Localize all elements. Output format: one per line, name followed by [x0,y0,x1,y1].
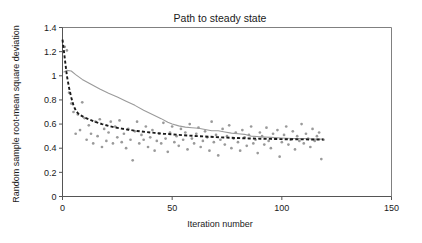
y-tick-label: 0.6 [44,119,57,129]
scatter-point [177,144,180,147]
scatter-point [98,118,101,121]
scatter-point [285,125,288,128]
scatter-point [66,49,69,52]
scatter-point [202,140,205,143]
scatter-point [300,123,303,126]
x-axis-title: Iteration number [187,219,253,229]
x-tick-label: 100 [274,203,289,213]
scatter-point [83,117,86,120]
scatter-point [311,128,314,131]
scatter-point [184,131,187,134]
scatter-point [210,120,213,123]
scatter-point [215,134,218,137]
scatter-point [96,135,99,138]
scatter-point [309,146,312,149]
scatter-point [263,143,266,146]
scatter-point [199,146,202,149]
scatter-point [72,111,75,114]
scatter-point [180,128,183,131]
x-tick-label: 50 [167,203,177,213]
x-tick-label: 0 [60,203,65,213]
scatter-point [219,138,222,141]
y-axis-title: Random sample root-mean square deviation [11,25,21,203]
scatter-point [171,125,174,128]
scatter-point [228,124,231,127]
scatter-point [116,136,119,139]
scatter-point [109,120,112,123]
scatter-point [125,147,128,150]
y-tick-label: 1.4 [44,23,57,33]
scatter-point [217,154,220,157]
scatter-point [278,155,281,158]
scatter-point [276,129,279,132]
scatter-point [173,141,176,144]
scatter-point [191,137,194,140]
scatter-point [298,140,301,143]
scatter-point [87,124,90,127]
scatter-point [74,132,77,135]
scatter-point [81,101,84,104]
scatter-point [149,136,152,139]
scatter-point [138,142,141,145]
scatter-point [193,142,196,145]
scatter-point [256,152,259,155]
scatter-point [230,147,233,150]
scatter-point [186,148,189,151]
scatter-point [140,134,143,137]
scatter-point [129,138,132,141]
scatter-point [136,120,139,123]
scatter-point [237,141,240,144]
scatter-point [90,132,93,135]
scatter-point [112,142,115,145]
scatter-point [302,142,305,145]
y-tick-label: 0.4 [44,143,57,153]
scatter-point [155,140,158,143]
scatter-point [164,137,167,140]
scatter-point [305,132,308,135]
scatter-point [166,150,169,153]
scatter-point [118,119,121,122]
y-tick-label: 0.2 [44,168,57,178]
scatter-point [160,142,163,145]
scatter-point [280,141,283,144]
scatter-point [92,142,95,145]
scatter-point [291,130,294,133]
scatter-point [107,131,110,134]
scatter-point [182,138,185,141]
scatter-point [250,125,253,128]
y-tick-label: 1 [51,71,56,81]
scatter-point [221,128,224,131]
scatter-point [208,149,211,152]
scatter-point [131,159,134,162]
scatter-point [270,147,273,150]
scatter-point [241,129,244,132]
scatter-point [147,146,150,149]
scatter-point [188,123,191,126]
scatter-point [318,131,321,134]
scatter-point [142,138,145,141]
scatter-point [283,134,286,137]
scatter-point [212,141,215,144]
scatter-point [144,125,147,128]
scatter-point [120,141,123,144]
scatter-point [294,148,297,151]
scatter-point [101,146,104,149]
scatter-point [245,144,248,147]
scatter-point [223,143,226,146]
scatter-point [287,143,290,146]
scatter-point [239,149,242,152]
scatter-point [267,140,270,143]
y-tick-label: 0 [51,192,56,202]
scatter-point [105,140,108,143]
scatter-point [162,122,165,125]
scatter-point [320,158,323,161]
scatter-point [123,132,126,135]
scatter-point [153,149,156,152]
scatter-point [204,130,207,133]
scatter-point [265,126,268,129]
scatter-point [296,135,299,138]
scatter-point [272,132,275,135]
chart-title: Path to steady state [174,12,267,24]
y-tick-label: 0.8 [44,95,57,105]
scatter-point [85,138,88,141]
